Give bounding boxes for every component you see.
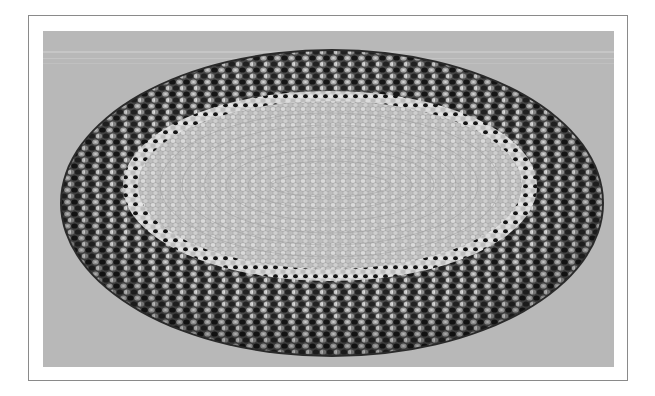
braided-rug-illustration bbox=[43, 31, 614, 367]
rug-center-field bbox=[138, 101, 522, 269]
rug-photo bbox=[43, 31, 614, 367]
